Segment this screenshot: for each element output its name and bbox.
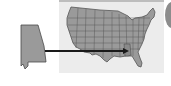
map-illustration (0, 0, 171, 86)
alabama-shape (21, 25, 46, 69)
us-map (67, 7, 155, 67)
